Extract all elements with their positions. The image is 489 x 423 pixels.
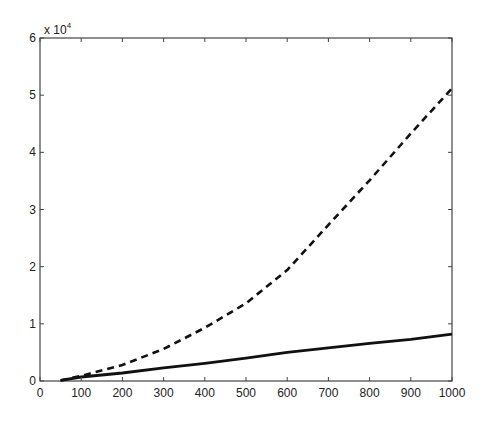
series-solid-line xyxy=(61,334,452,380)
x-tick-label: 300 xyxy=(154,386,174,400)
x-tick-label: 100 xyxy=(71,386,91,400)
y-tick-label: 6 xyxy=(29,31,36,45)
y-tick-label: 1 xyxy=(29,317,36,331)
x-tick-label: 0 xyxy=(37,386,44,400)
x-tick-label: 1000 xyxy=(439,386,466,400)
plot-axes xyxy=(40,38,452,381)
x-tick-label: 700 xyxy=(318,386,338,400)
x-tick-label: 600 xyxy=(277,386,297,400)
series-layer xyxy=(61,88,452,380)
x-tick-label: 900 xyxy=(401,386,421,400)
plot-frame xyxy=(40,38,452,381)
x-tick-label: 500 xyxy=(236,386,256,400)
tick-layer: 010020030040050060070080090010000123456 xyxy=(29,31,465,400)
series-dashed-line xyxy=(61,88,452,380)
line-chart: 010020030040050060070080090010000123456 … xyxy=(0,0,489,423)
x-tick-label: 200 xyxy=(112,386,132,400)
x-tick-label: 400 xyxy=(195,386,215,400)
x-tick-label: 800 xyxy=(360,386,380,400)
y-axis-multiplier: x 104 xyxy=(44,21,72,37)
y-tick-label: 3 xyxy=(29,203,36,217)
y-tick-label: 2 xyxy=(29,260,36,274)
y-tick-label: 5 xyxy=(29,88,36,102)
y-tick-label: 0 xyxy=(29,374,36,388)
y-tick-label: 4 xyxy=(29,145,36,159)
